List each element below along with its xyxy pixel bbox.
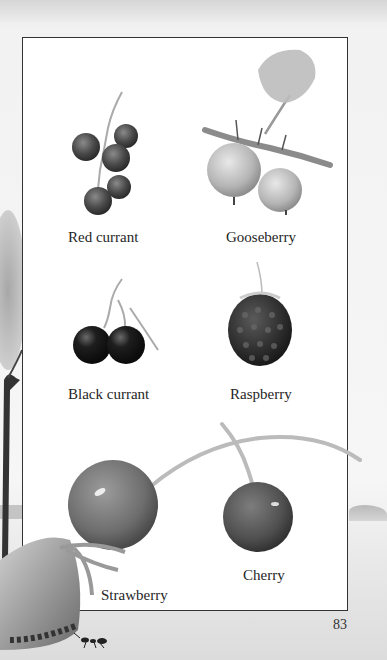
label-gooseberry: Gooseberry xyxy=(226,229,296,246)
page-number: 83 xyxy=(333,617,347,633)
cherry-illustration xyxy=(68,424,360,552)
black-currant-illustration xyxy=(73,279,158,364)
ant-icon xyxy=(74,633,107,648)
label-cherry: Cherry xyxy=(243,567,285,584)
label-red-currant: Red currant xyxy=(68,229,138,246)
label-strawberry: Strawberry xyxy=(101,587,168,604)
fruit-illustrations xyxy=(0,0,387,660)
red-currant-illustration xyxy=(72,92,138,215)
raspberry-illustration xyxy=(228,262,292,366)
gooseberry-illustration xyxy=(205,50,330,215)
label-raspberry: Raspberry xyxy=(230,386,292,403)
label-black-currant: Black currant xyxy=(68,386,149,403)
